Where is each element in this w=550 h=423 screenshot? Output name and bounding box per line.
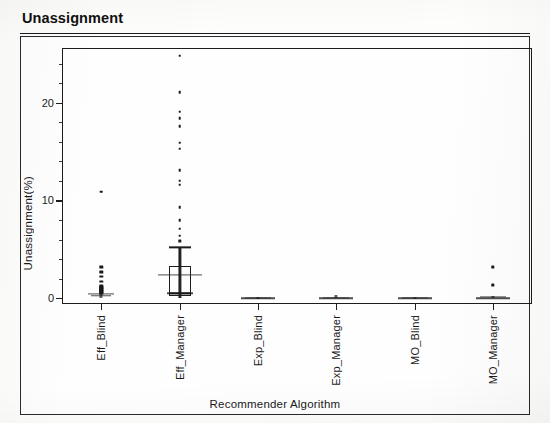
y-tick-minor [59,259,63,260]
data-point [100,190,103,193]
x-axis-line [62,303,532,304]
x-tick [180,304,181,310]
figure-title-block: Unassignment [22,10,528,27]
y-tick-label: 0 [48,292,54,304]
y-tick-minor [59,181,63,182]
x-tick-label-eff_manager: Eff_Manager [174,315,186,380]
data-point [178,91,181,94]
x-tick [258,304,259,310]
data-point [178,240,181,243]
data-point [99,270,102,273]
data-point [178,117,181,120]
data-point [99,280,102,283]
plot-right-spine [531,48,532,304]
x-tick [493,304,494,310]
data-point [178,110,181,113]
data-point [491,284,494,287]
y-tick-major [56,103,62,104]
overplotted-point-stack [413,297,416,299]
y-tick-minor [59,161,63,162]
x-tick-label-mo_blind: MO_Blind [409,315,421,365]
y-tick-minor [59,142,63,143]
data-point [178,125,181,128]
y-tick-minor [59,220,63,221]
data-point [99,275,102,278]
overplotted-point-stack [491,296,494,298]
data-point [178,219,181,222]
x-tick-label-exp_manager: Exp_Manager [330,315,342,386]
data-point [178,180,181,183]
y-tick-minor [59,240,63,241]
data-point [178,183,181,186]
x-tick [101,304,102,310]
data-point [178,169,181,172]
y-tick-label: 10 [42,194,54,206]
data-point [178,206,181,209]
overplotted-point-stack [178,247,181,298]
data-point [178,55,181,58]
y-axis-line [62,48,63,304]
y-axis-title: Unassignment(%) [22,176,34,270]
page-title: Unassignment [22,10,528,27]
data-point [178,227,181,230]
y-tick-major [56,200,62,201]
title-divider [20,33,530,34]
data-point [178,147,181,150]
data-point [178,141,181,144]
x-tick-label-mo_manager: MO_Manager [487,315,499,384]
x-axis-title: Recommender Algorithm [0,398,550,410]
y-tick-minor [59,279,63,280]
overplotted-point-stack [335,295,338,298]
unassignment-figure: Unassignment Unassignment(%) Recommender… [0,0,550,423]
x-tick [415,304,416,310]
data-point [491,265,494,268]
y-tick-major [56,298,62,299]
plot-axes: 01020 Eff_BlindEff_ManagerExp_BlindExp_M… [62,48,532,304]
x-tick [336,304,337,310]
y-tick-minor [59,83,63,84]
y-tick-minor [59,122,63,123]
plot-top-spine [62,48,532,49]
x-tick-label-exp_blind: Exp_Blind [252,315,264,366]
x-tick-label-eff_blind: Eff_Blind [95,315,107,361]
overplotted-point-stack [256,297,259,299]
data-point [99,265,102,268]
data-point [178,234,181,237]
y-tick-label: 20 [42,97,54,109]
y-tick-minor [59,64,63,65]
data-point [99,285,102,288]
